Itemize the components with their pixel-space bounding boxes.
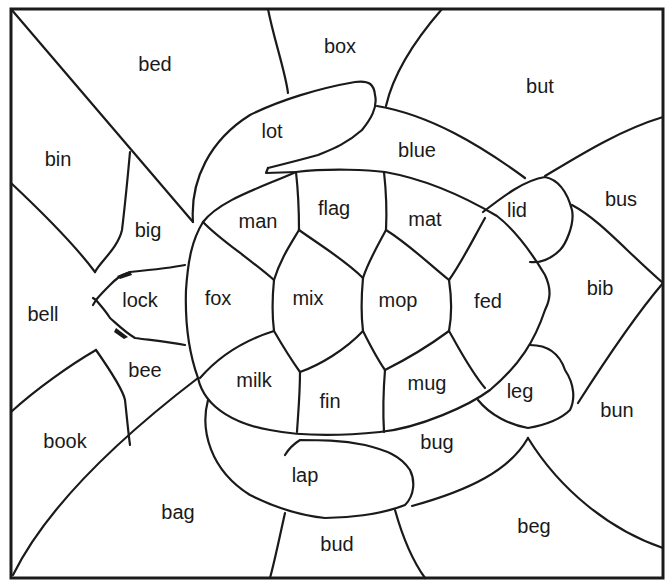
region-label-mix[interactable]: mix xyxy=(292,287,323,309)
region-label-book[interactable]: book xyxy=(43,430,87,452)
region-label-but[interactable]: but xyxy=(526,75,554,97)
region-label-big[interactable]: big xyxy=(135,219,162,241)
worksheet-frame xyxy=(11,9,663,578)
region-label-flag[interactable]: flag xyxy=(318,197,350,219)
region-label-bun[interactable]: bun xyxy=(600,399,633,421)
region-label-fin[interactable]: fin xyxy=(319,390,340,412)
region-label-bee[interactable]: bee xyxy=(128,359,161,381)
region-label-beg[interactable]: beg xyxy=(517,515,550,537)
region-label-bin[interactable]: bin xyxy=(45,148,72,170)
background-lines xyxy=(11,9,663,578)
region-label-milk[interactable]: milk xyxy=(236,369,273,391)
region-label-box[interactable]: box xyxy=(324,35,356,57)
region-label-mat[interactable]: mat xyxy=(408,208,442,230)
tail-region-outline xyxy=(572,205,663,403)
region-label-lap[interactable]: lap xyxy=(292,464,319,486)
region-label-lid[interactable]: lid xyxy=(507,199,527,221)
word-labels: bed box but lot blue bin bus lid man fla… xyxy=(27,35,637,555)
region-label-blue[interactable]: blue xyxy=(398,139,436,161)
turtle-line-drawing: bed box but lot blue bin bus lid man fla… xyxy=(0,0,670,583)
region-label-lot[interactable]: lot xyxy=(261,120,283,142)
region-label-bag[interactable]: bag xyxy=(161,501,194,523)
turtle-worksheet: bed box but lot blue bin bus lid man fla… xyxy=(0,0,670,583)
region-label-bug[interactable]: bug xyxy=(420,431,453,453)
region-label-mug[interactable]: mug xyxy=(408,372,447,394)
region-label-fed[interactable]: fed xyxy=(474,290,502,312)
front-bottom-flipper-outline xyxy=(205,400,413,518)
region-label-bib[interactable]: bib xyxy=(587,277,614,299)
region-label-man[interactable]: man xyxy=(239,210,278,232)
head-mark-top xyxy=(117,271,132,279)
head-mark-bottom xyxy=(114,328,128,339)
region-label-bud[interactable]: bud xyxy=(320,533,353,555)
region-label-leg[interactable]: leg xyxy=(507,380,534,402)
region-label-lock[interactable]: lock xyxy=(122,289,159,311)
region-label-bell[interactable]: bell xyxy=(27,303,58,325)
region-label-mop[interactable]: mop xyxy=(379,289,418,311)
region-label-fox[interactable]: fox xyxy=(205,287,232,309)
region-label-bed[interactable]: bed xyxy=(138,53,171,75)
region-label-bus[interactable]: bus xyxy=(605,188,637,210)
